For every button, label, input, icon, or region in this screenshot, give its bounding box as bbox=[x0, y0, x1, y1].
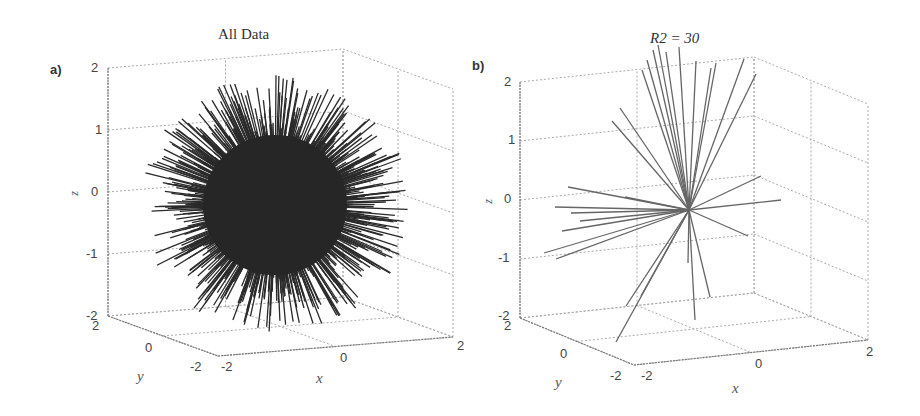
y-tick-0: 0 bbox=[560, 346, 567, 361]
plot-title-b: R2 = 30 bbox=[650, 30, 699, 47]
z-axis-label-b: z bbox=[481, 199, 496, 204]
y-tick-0: 0 bbox=[145, 340, 152, 355]
z-tick-0: 0 bbox=[91, 184, 98, 199]
z-tick-1: 1 bbox=[508, 132, 515, 147]
z-tick-0: 0 bbox=[504, 191, 511, 206]
panel-label-a: a) bbox=[50, 62, 62, 77]
x-tick-0: 0 bbox=[755, 356, 762, 371]
z-tick-1: 1 bbox=[95, 122, 102, 137]
y-tick-neg2: -2 bbox=[610, 368, 622, 383]
z-tick-neg1: -1 bbox=[498, 250, 510, 265]
z-tick-2: 2 bbox=[91, 60, 98, 75]
z-tick-2: 2 bbox=[504, 74, 511, 89]
x-axis-label-a: x bbox=[316, 370, 323, 387]
x-tick-neg2: -2 bbox=[221, 359, 233, 374]
x-tick-neg2: -2 bbox=[641, 368, 653, 383]
y-tick-neg2: -2 bbox=[190, 359, 202, 374]
plot-area-b bbox=[460, 0, 920, 416]
panel-b: R2 = 30 b) 2 1 0 -1 -2 z 2 0 -2 y -2 0 2… bbox=[460, 0, 920, 416]
y-tick-2: 2 bbox=[504, 318, 511, 333]
y-axis-label-a: y bbox=[137, 368, 144, 385]
y-axis-label-b: y bbox=[555, 374, 562, 391]
plot-area-a bbox=[0, 0, 460, 416]
y-tick-2: 2 bbox=[92, 318, 99, 333]
panel-a: All Data a) 2 1 0 -1 -2 z 2 0 -2 y -2 0 … bbox=[0, 0, 460, 416]
z-tick-neg1: -1 bbox=[86, 246, 98, 261]
x-axis-label-b: x bbox=[732, 380, 739, 397]
x-tick-0: 0 bbox=[340, 350, 347, 365]
x-tick-2: 2 bbox=[866, 344, 873, 359]
plot-title-a: All Data bbox=[218, 26, 269, 43]
panel-label-b: b) bbox=[472, 58, 484, 73]
z-axis-label-a: z bbox=[67, 191, 82, 196]
